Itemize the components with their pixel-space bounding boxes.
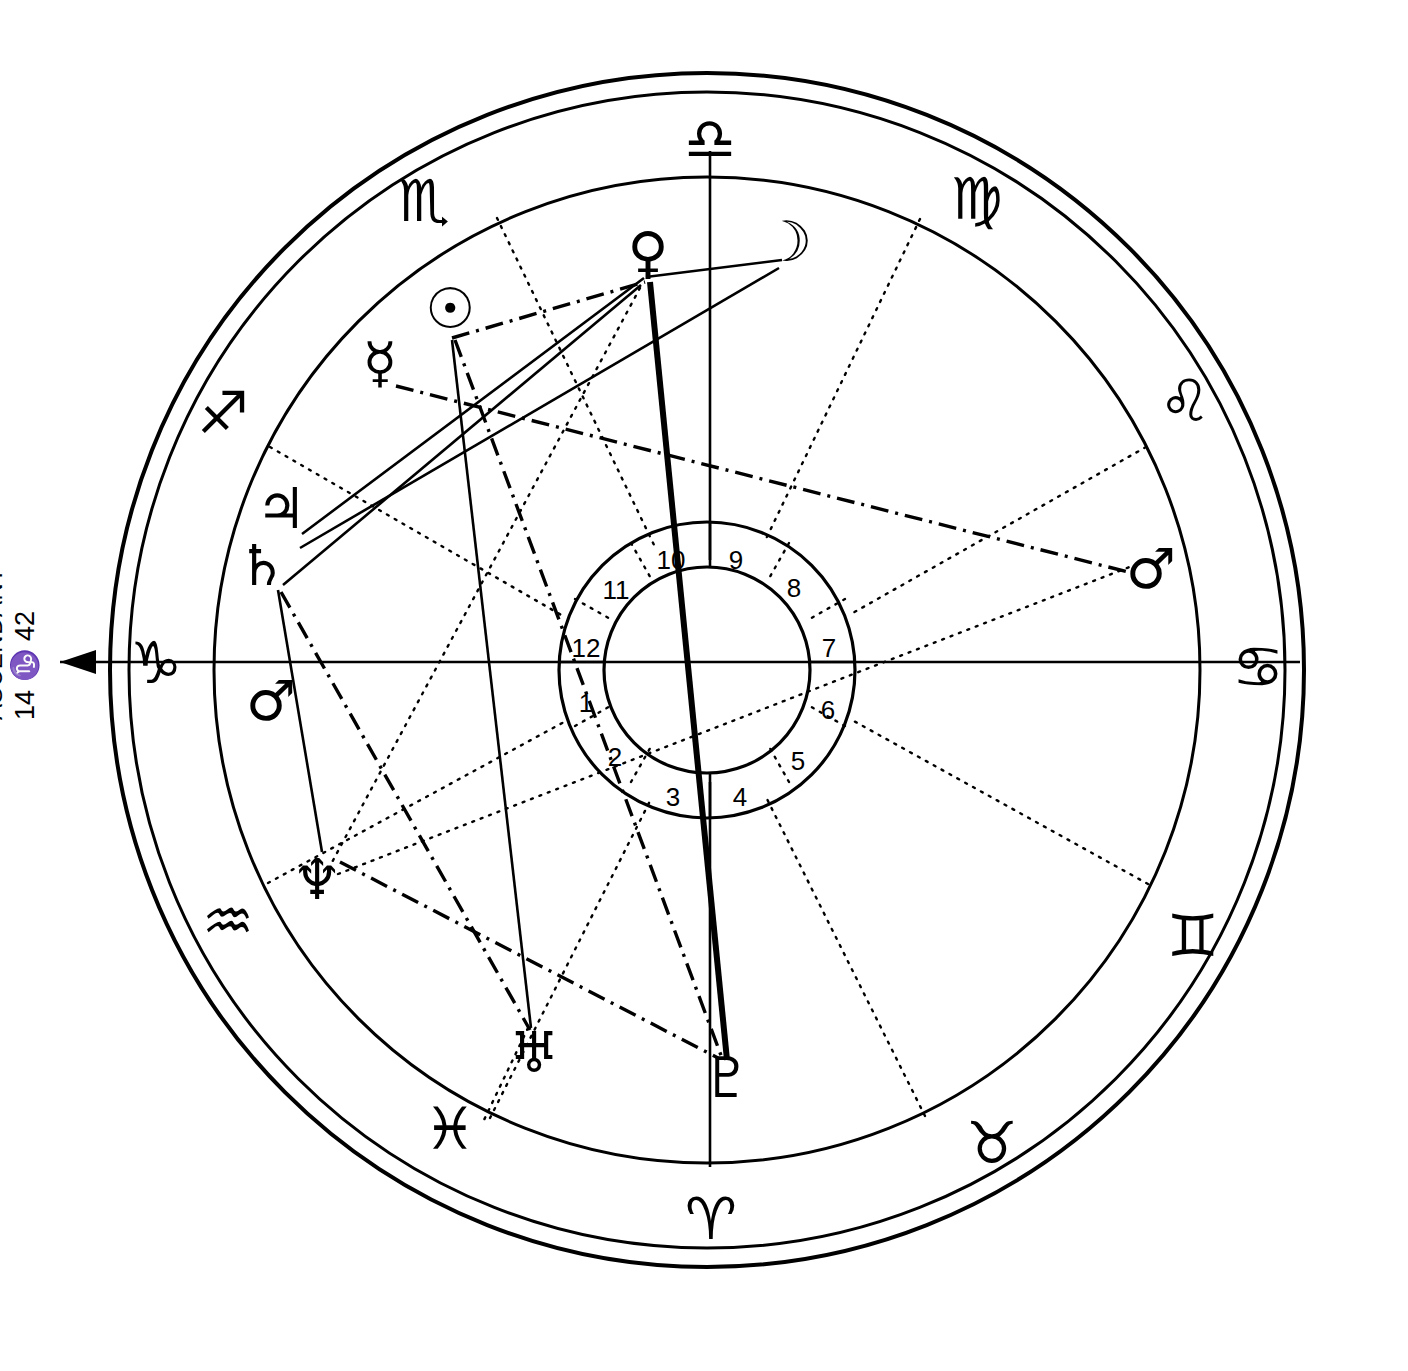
house-number-9: 9 bbox=[729, 545, 743, 575]
planet-glyph-jupiter: ♃ bbox=[256, 476, 306, 541]
planet-glyph-moon: ☽ bbox=[762, 209, 812, 274]
aspect-sun-uranus bbox=[452, 340, 531, 1028]
planet-glyph-pluto: ♇ bbox=[702, 1045, 752, 1110]
planet-glyph-venus: ♀ bbox=[627, 220, 668, 285]
house-number-3: 3 bbox=[666, 782, 680, 812]
sign-glyph-sagittarius: ♐ bbox=[197, 379, 249, 447]
house-number-8: 8 bbox=[787, 573, 801, 603]
planet-glyph-mars: ♂ bbox=[246, 668, 296, 733]
aspect-sun-venus bbox=[452, 282, 645, 338]
planet-glyph-mercury: ☿ bbox=[363, 330, 397, 395]
horoscope-chart: ♎ ♍ ♌ ♋ ♊ ♉ ♈ ♓ ♒ ♑ ♐ ♏ ☉ ☿ ♀ ☽ ♂ ♃ ♄ ♅ … bbox=[0, 0, 1408, 1371]
house-number-4: 4 bbox=[733, 782, 747, 812]
sign-glyph-gemini: ♊ bbox=[1167, 902, 1219, 970]
planet-glyph-mars-secondary: ♂ bbox=[1126, 536, 1176, 601]
house-divider-8-9 bbox=[767, 543, 789, 582]
cusp-line-6 bbox=[852, 720, 1148, 884]
cusp-line-5 bbox=[765, 795, 925, 1116]
planet-glyph-saturn: ♄ bbox=[237, 533, 287, 598]
chart-wheel-svg: ♎ ♍ ♌ ♋ ♊ ♉ ♈ ♓ ♒ ♑ ♐ ♏ ☉ ☿ ♀ ☽ ♂ ♃ ♄ ♅ … bbox=[0, 0, 1408, 1371]
aspect-venus-pluto bbox=[650, 282, 727, 1060]
ascendant-label-group: ASCENDANT 14 ♑ 42 bbox=[0, 567, 40, 720]
ascendant-arrow-icon bbox=[60, 650, 96, 674]
cusp-line-8 bbox=[851, 447, 1146, 614]
sign-glyph-pisces: ♓ bbox=[424, 1095, 476, 1163]
house-divider-4-5 bbox=[767, 743, 789, 782]
sign-glyph-aries: ♈ bbox=[685, 1185, 737, 1253]
house-divider-11-10 bbox=[631, 543, 653, 582]
aspect-saturn-uranus bbox=[281, 592, 530, 1030]
house-ring-inner-circle bbox=[604, 567, 810, 773]
sign-glyph-scorpio: ♏ bbox=[398, 167, 450, 235]
ascendant-title: ASCENDANT bbox=[0, 567, 7, 720]
planet-glyph-sun: ☉ bbox=[425, 276, 475, 341]
planet-glyph-neptune: ♆ bbox=[292, 847, 342, 912]
ascendant-value: 14 ♑ 42 bbox=[9, 611, 40, 720]
sign-band-circle bbox=[214, 177, 1200, 1163]
house-number-2: 2 bbox=[608, 742, 622, 772]
sign-glyph-leo: ♌ bbox=[1159, 367, 1211, 435]
house-cusp-lines bbox=[268, 218, 1148, 1118]
house-number-1: 1 bbox=[579, 688, 593, 718]
house-number-5: 5 bbox=[791, 746, 805, 776]
sign-glyph-cancer: ♋ bbox=[1232, 633, 1284, 701]
sign-glyph-libra: ♎ bbox=[684, 105, 736, 173]
house-number-11: 11 bbox=[603, 575, 630, 605]
sign-glyph-aquarius: ♒ bbox=[202, 887, 254, 955]
sign-glyph-virgo: ♍ bbox=[951, 165, 1003, 233]
aspect-neptune-mars2 bbox=[338, 566, 1132, 874]
aspect-lines-group bbox=[278, 260, 1132, 1120]
planet-glyphs: ☉ ☿ ♀ ☽ ♂ ♃ ♄ ♅ ♆ ♇ ♂ bbox=[237, 209, 1176, 1110]
house-number-6: 6 bbox=[821, 695, 835, 725]
sign-glyph-taurus: ♉ bbox=[966, 1109, 1018, 1177]
house-number-10: 10 bbox=[657, 545, 686, 575]
planet-glyph-uranus: ♅ bbox=[509, 1020, 559, 1085]
house-number-7: 7 bbox=[822, 633, 836, 663]
house-number-12: 12 bbox=[572, 633, 601, 663]
sign-glyph-capricorn: ♑ bbox=[130, 629, 182, 697]
